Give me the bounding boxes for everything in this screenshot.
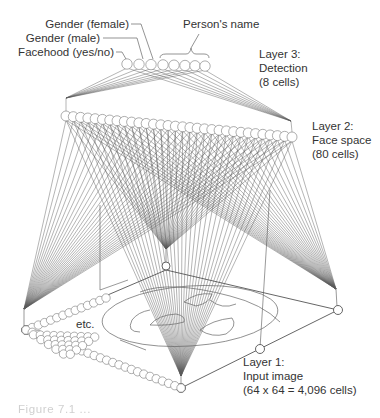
layer1-label: Layer 1: Input image (64 x 64 = 4,096 ce… — [243, 355, 356, 397]
layer2-label: Layer 2: Face space (80 cells) — [312, 119, 371, 161]
label-person-name: Person's name — [183, 18, 259, 31]
label-gender-female: Gender (female) — [45, 18, 129, 31]
layer1-cells — [22, 294, 185, 392]
layer1-name: Input image — [243, 369, 356, 383]
layer3-count: (8 cells) — [259, 75, 308, 89]
figure-caption: Figure 7.1 ... — [18, 403, 91, 415]
label-gender-male: Gender (male) — [26, 32, 100, 45]
layer1-count: (64 x 64 = 4,096 cells) — [243, 383, 356, 397]
etc-label: etc. — [76, 318, 95, 331]
layer3-label: Layer 3: Detection (8 cells) — [259, 47, 308, 89]
layer2-name: Face space — [312, 133, 371, 147]
layer3-cells — [122, 59, 210, 71]
face-image-sketch — [100, 280, 280, 352]
layer3-name: Detection — [259, 61, 308, 75]
label-facehood: Facehood (yes/no) — [18, 46, 114, 59]
layer1-title: Layer 1: — [243, 355, 356, 369]
layer2-title: Layer 2: — [312, 119, 371, 133]
layer3-title: Layer 3: — [259, 47, 308, 61]
layer2-count: (80 cells) — [312, 147, 371, 161]
